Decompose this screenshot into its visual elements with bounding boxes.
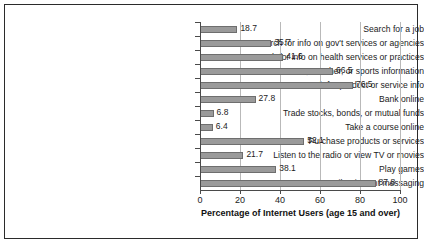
category-label: Trade stocks, bonds, or mutual funds xyxy=(228,108,424,118)
x-axis-line xyxy=(200,190,401,191)
bar-value-label: 21.7 xyxy=(246,150,263,159)
bar-value-label: 27.8 xyxy=(259,94,276,103)
bar xyxy=(200,96,256,103)
bar xyxy=(200,110,214,117)
bar xyxy=(200,54,283,61)
bar xyxy=(200,152,243,159)
x-tick-label: 100 xyxy=(392,195,407,205)
bar xyxy=(200,40,271,47)
x-tick xyxy=(280,190,281,194)
x-tick xyxy=(360,190,361,194)
x-tick xyxy=(200,190,201,194)
bar xyxy=(200,180,376,187)
bar xyxy=(200,68,333,75)
y-axis-line xyxy=(200,22,201,191)
x-tick-label: 0 xyxy=(197,195,202,205)
bar xyxy=(200,26,237,33)
bar-value-label: 76.5 xyxy=(356,80,373,89)
bar-value-label: 66.5 xyxy=(336,66,353,75)
x-tick-label: 20 xyxy=(235,195,245,205)
bar-value-label: 6.4 xyxy=(216,122,228,131)
x-axis-title: Percentage of Internet Users (age 15 and… xyxy=(200,208,401,218)
gridline xyxy=(320,22,321,190)
bar-value-label: 6.8 xyxy=(217,108,229,117)
bar-value-label: 87.8 xyxy=(379,178,396,187)
x-tick xyxy=(240,190,241,194)
chart-figure: Search for a jobSearch for info on gov't… xyxy=(0,0,424,245)
bar xyxy=(200,166,276,173)
gridline xyxy=(400,22,401,190)
x-tick-label: 80 xyxy=(355,195,365,205)
category-label: Take a course online xyxy=(228,122,424,132)
bar-value-label: 35.7 xyxy=(274,38,291,47)
x-tick-label: 40 xyxy=(275,195,285,205)
gridline xyxy=(360,22,361,190)
bar-value-label: 41.6 xyxy=(286,52,303,61)
bar xyxy=(200,124,213,131)
bar xyxy=(200,82,353,89)
bar-value-label: 18.7 xyxy=(240,24,257,33)
x-tick xyxy=(320,190,321,194)
bar xyxy=(200,138,304,145)
x-tick-label: 60 xyxy=(315,195,325,205)
x-tick xyxy=(400,190,401,194)
category-label: Search for a job xyxy=(228,24,424,34)
bar-value-label: 52.1 xyxy=(307,136,324,145)
bar-value-label: 38.1 xyxy=(279,164,296,173)
category-label: Bank online xyxy=(228,94,424,104)
